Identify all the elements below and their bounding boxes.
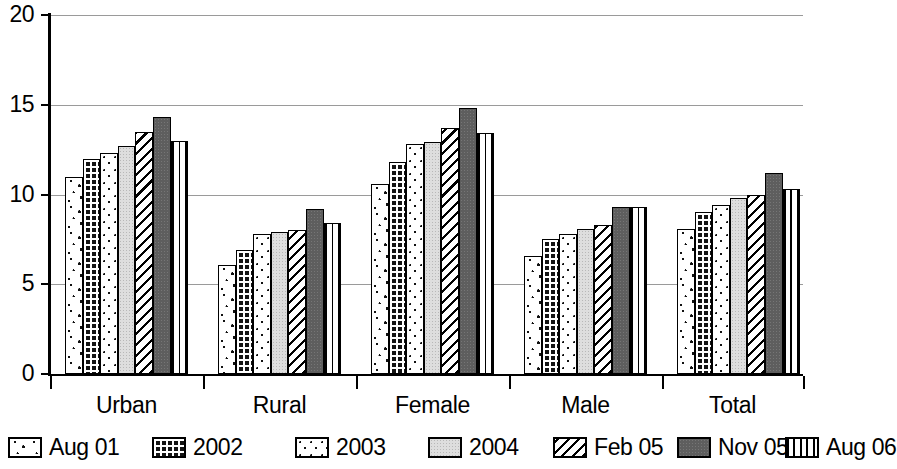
bar-rural-aug-06	[324, 223, 342, 374]
y-axis-tick-label: 0	[0, 362, 34, 385]
legend-item-aug-06[interactable]: Aug 06	[785, 436, 897, 459]
bar-female-2004	[424, 142, 442, 374]
bar-urban-feb-05	[135, 132, 153, 374]
bar-female-2003	[406, 144, 424, 374]
x-axis-tick-mark	[509, 376, 511, 389]
bar-male-nov-05	[612, 207, 630, 374]
legend-item-2004[interactable]: 2004	[428, 436, 519, 459]
plot-area	[50, 15, 803, 374]
x-axis-category-label-total: Total	[662, 392, 803, 418]
x-axis-tick-mark	[50, 376, 52, 389]
x-axis-category-label-male: Male	[509, 392, 662, 418]
legend-swatch-diagonal-hatch-icon	[553, 437, 587, 458]
bar-group-female	[371, 15, 494, 374]
chart-legend: Aug 01200220032004Feb 05Nov 05Aug 06	[4, 432, 840, 466]
bar-female-nov-05	[459, 108, 477, 374]
bar-male-2004	[577, 229, 595, 374]
bar-male-aug-06	[630, 207, 648, 374]
bar-group-total	[677, 15, 800, 374]
bar-male-2002	[542, 239, 560, 374]
legend-item-nov-05[interactable]: Nov 05	[677, 436, 788, 459]
bar-group-urban	[65, 15, 188, 374]
bar-urban-2003	[100, 153, 118, 374]
legend-item-feb-05[interactable]: Feb 05	[553, 436, 663, 459]
bar-total-nov-05	[765, 173, 783, 374]
bar-total-aug-06	[783, 189, 801, 374]
bar-rural-nov-05	[306, 209, 324, 374]
bar-group-male	[524, 15, 647, 374]
bar-female-2002	[389, 162, 407, 374]
legend-label: 2003	[336, 436, 386, 459]
bar-total-2002	[695, 212, 713, 374]
bar-urban-2002	[83, 159, 101, 374]
legend-label: Nov 05	[718, 436, 788, 459]
bar-group-rural	[218, 15, 341, 374]
x-axis-category-label-rural: Rural	[203, 392, 356, 418]
bar-male-2003	[559, 234, 577, 374]
bar-female-aug-01	[371, 184, 389, 374]
bar-urban-2004	[118, 146, 136, 374]
bar-urban-nov-05	[153, 117, 171, 374]
legend-label: 2004	[469, 436, 519, 459]
y-axis-tick-label: 15	[0, 93, 34, 116]
legend-item-aug-01[interactable]: Aug 01	[8, 436, 120, 459]
x-axis-category-label-urban: Urban	[50, 392, 203, 418]
legend-label: Aug 06	[826, 436, 897, 459]
bar-rural-2004	[271, 232, 289, 374]
x-axis-tick-mark	[803, 376, 805, 389]
bar-male-feb-05	[594, 225, 612, 374]
bar-total-2003	[712, 205, 730, 374]
y-axis-line	[48, 13, 51, 376]
bar-urban-aug-01	[65, 177, 83, 374]
x-axis-tick-mark	[356, 376, 358, 389]
x-axis-tick-mark	[203, 376, 205, 389]
legend-item-2002[interactable]: 2002	[152, 436, 243, 459]
bar-total-feb-05	[747, 195, 765, 375]
legend-swatch-vertical-stripes-icon	[785, 437, 819, 458]
y-axis-tick-label: 10	[0, 183, 34, 206]
bar-total-2004	[730, 198, 748, 374]
legend-label: Feb 05	[594, 436, 663, 459]
y-axis-tick-label: 5	[0, 272, 34, 295]
bar-total-aug-01	[677, 229, 695, 374]
x-axis-category-label-female: Female	[356, 392, 509, 418]
x-axis-tick-mark	[662, 376, 664, 389]
bar-urban-aug-06	[171, 141, 189, 374]
bar-rural-aug-01	[218, 265, 236, 374]
bar-rural-2003	[253, 234, 271, 374]
legend-swatch-dark-gray-solid-icon	[677, 437, 711, 458]
y-axis-tick-label: 20	[0, 3, 34, 26]
bar-rural-2002	[236, 250, 254, 374]
legend-item-2003[interactable]: 2003	[295, 436, 386, 459]
bar-male-aug-01	[524, 256, 542, 374]
legend-swatch-sparse-dots-icon	[8, 437, 42, 458]
legend-swatch-light-gray-solid-icon	[428, 437, 462, 458]
bar-female-feb-05	[441, 128, 459, 374]
bar-rural-feb-05	[288, 230, 306, 374]
legend-label: 2002	[193, 436, 243, 459]
legend-label: Aug 01	[49, 436, 120, 459]
x-axis-line	[50, 374, 803, 376]
legend-swatch-dark-grid-icon	[152, 437, 186, 458]
bar-female-aug-06	[477, 133, 495, 374]
legend-swatch-fine-dots-icon	[295, 437, 329, 458]
